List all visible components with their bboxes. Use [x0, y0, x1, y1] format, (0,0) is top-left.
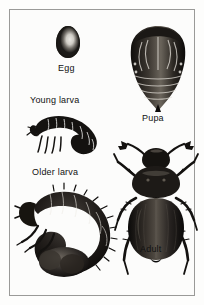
stage-label-young-larva: Young larva [30, 96, 79, 105]
stage-label-pupa: Pupa [142, 114, 164, 123]
stage-pupa: Pupa [122, 24, 198, 134]
beetle-egg-icon [56, 26, 80, 58]
stage-egg: Egg [44, 26, 100, 88]
young-grub-icon [26, 112, 104, 158]
stage-label-adult: Adult [140, 245, 162, 254]
older-grub-icon [14, 182, 122, 286]
stage-adult: Adult [112, 140, 202, 290]
stage-label-older-larva: Older larva [32, 168, 78, 177]
beetle-pupa-icon [126, 24, 190, 112]
stage-label-egg: Egg [58, 64, 75, 73]
beetle-life-cycle-figure: Egg Young larva [0, 0, 204, 305]
adult-beetle-icon [112, 140, 200, 282]
